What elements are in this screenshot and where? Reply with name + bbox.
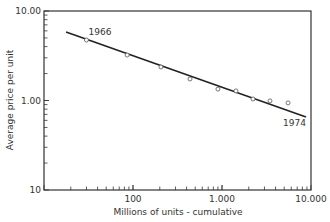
data-point xyxy=(286,101,290,105)
annotation-1974: 1974 xyxy=(283,118,306,128)
y-tick-label: 10 xyxy=(30,185,42,195)
data-point xyxy=(84,38,88,42)
x-tick-label: 100 xyxy=(124,194,141,204)
experience-curve-chart: 10.001.0010 1001.00010.000 Average price… xyxy=(0,0,330,222)
trend-line xyxy=(66,32,306,117)
x-axis-ticks xyxy=(44,185,311,190)
data-point xyxy=(268,99,272,103)
x-axis-title: Millions of units - cumulative xyxy=(113,207,243,217)
y-tick-label: 1.00 xyxy=(21,96,41,106)
data-point xyxy=(159,65,163,69)
data-point xyxy=(125,53,129,57)
data-point xyxy=(216,87,220,91)
trend-line-segment xyxy=(66,32,306,117)
data-point xyxy=(251,97,255,101)
y-axis-title: Average price per unit xyxy=(5,49,15,150)
y-axis-tick-labels: 10.001.0010 xyxy=(15,6,41,195)
x-tick-label: 10.000 xyxy=(295,194,327,204)
data-point xyxy=(188,77,192,81)
y-tick-label: 10.00 xyxy=(15,6,41,16)
y-axis-ticks xyxy=(44,11,49,190)
data-points xyxy=(84,38,290,105)
x-tick-label: 1.000 xyxy=(209,194,235,204)
data-point xyxy=(234,89,238,93)
annotations: 19661974 xyxy=(88,27,306,128)
annotation-1966: 1966 xyxy=(88,27,111,37)
x-axis-tick-labels: 1001.00010.000 xyxy=(124,194,327,204)
